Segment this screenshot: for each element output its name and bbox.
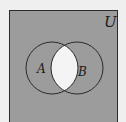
- set-b-label: B: [77, 65, 87, 79]
- venn-diagram: U A B: [0, 0, 126, 122]
- universe-label: U: [104, 13, 118, 31]
- set-a-label: A: [36, 62, 46, 76]
